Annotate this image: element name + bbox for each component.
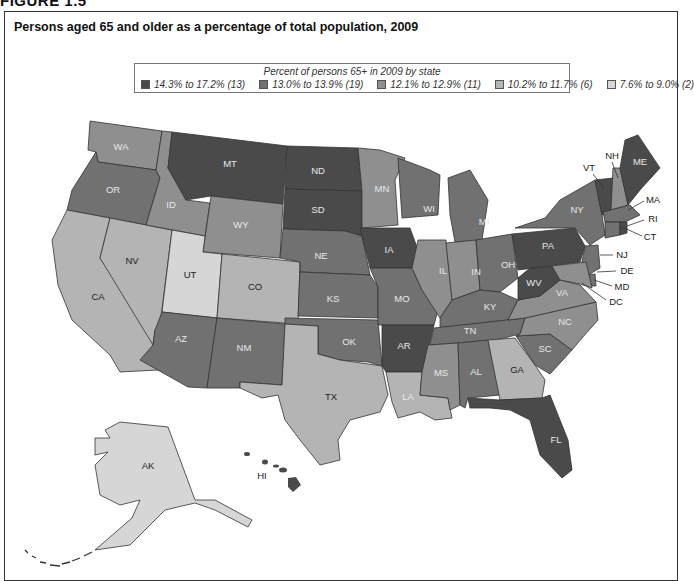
state-HI-island-4[interactable]	[279, 468, 287, 473]
label-VA: VA	[556, 287, 569, 298]
label-NE: NE	[314, 250, 327, 261]
label-NY: NY	[570, 204, 584, 215]
legend-label: 12.1% to 12.9% (11)	[390, 79, 480, 90]
label-OR: OR	[106, 184, 120, 195]
label-TX: TX	[325, 391, 338, 402]
label-WV: WV	[526, 277, 542, 288]
label-MN: MN	[375, 183, 390, 194]
label-KY: KY	[484, 301, 497, 312]
legend-item-class-3: 12.1% to 12.9% (11)	[377, 79, 480, 90]
label-OK: OK	[342, 336, 356, 347]
label-NC: NC	[558, 316, 572, 327]
label-WI: WI	[423, 203, 435, 214]
label-FL: FL	[550, 434, 561, 445]
label-AZ: AZ	[175, 333, 187, 344]
label-WA: WA	[114, 141, 130, 152]
label-NH: NH	[605, 150, 619, 161]
leader-DE	[597, 271, 616, 272]
label-MT: MT	[223, 158, 237, 169]
legend-item-class-1: 14.3% to 17.2% (13)	[141, 79, 245, 90]
label-NJ: NJ	[616, 249, 628, 260]
label-GA: GA	[510, 364, 524, 375]
alaska-aleutians	[25, 550, 92, 566]
state-MI[interactable]	[448, 170, 488, 242]
label-ME: ME	[633, 156, 647, 167]
label-NM: NM	[237, 342, 252, 353]
label-KS: KS	[327, 293, 340, 304]
legend-label: 14.3% to 17.2% (13)	[154, 79, 245, 90]
legend-swatch-icon	[141, 80, 150, 89]
state-NM[interactable]	[207, 318, 285, 388]
label-MD: MD	[615, 281, 630, 292]
state-HI[interactable]	[288, 477, 301, 492]
legend-item-class-4: 10.2% to 11.7% (6)	[495, 79, 593, 90]
legend-label: 10.2% to 11.7% (6)	[508, 79, 593, 90]
legend: Percent of persons 65+ in 2009 by state …	[134, 63, 570, 93]
label-PA: PA	[542, 240, 555, 251]
state-HI-island-2[interactable]	[262, 460, 268, 465]
label-CO: CO	[248, 281, 262, 292]
legend-swatch-icon	[607, 80, 616, 89]
label-NV: NV	[125, 255, 139, 266]
label-DC: DC	[609, 296, 623, 307]
label-IA: IA	[385, 244, 395, 255]
state-AK[interactable]	[95, 422, 252, 550]
leader-MD	[594, 280, 612, 286]
label-IN: IN	[471, 266, 481, 277]
label-ID: ID	[166, 199, 176, 210]
legend-item-class-2: 13.0% to 13.9% (19)	[259, 79, 363, 90]
label-MS: MS	[434, 367, 448, 378]
label-WY: WY	[233, 219, 249, 230]
label-CT: CT	[644, 231, 657, 242]
label-MO: MO	[394, 293, 409, 304]
state-HI-island-1[interactable]	[244, 452, 250, 456]
label-CA: CA	[91, 291, 105, 302]
legend-title: Percent of persons 65+ in 2009 by state	[135, 66, 569, 77]
label-UT: UT	[184, 269, 197, 280]
legend-swatch-icon	[495, 80, 504, 89]
state-HI-island-3[interactable]	[273, 465, 279, 468]
label-HI: HI	[257, 470, 267, 481]
state-CT[interactable]	[605, 222, 620, 238]
label-RI: RI	[648, 213, 658, 224]
leader-RI	[627, 220, 644, 226]
label-AR: AR	[397, 340, 410, 351]
label-SD: SD	[311, 204, 324, 215]
label-VT: VT	[583, 162, 595, 173]
label-IL: IL	[439, 265, 447, 276]
label-ND: ND	[311, 165, 325, 176]
label-MI: MI	[479, 216, 490, 227]
label-MA: MA	[646, 194, 661, 205]
label-LA: LA	[402, 391, 414, 402]
legend-swatch-icon	[259, 80, 268, 89]
label-OH: OH	[501, 259, 515, 270]
label-AL: AL	[470, 366, 482, 377]
legend-label: 13.0% to 13.9% (19)	[272, 79, 363, 90]
label-SC: SC	[538, 343, 551, 354]
label-DE: DE	[620, 265, 633, 276]
legend-label: 7.6% to 9.0% (2)	[620, 79, 694, 90]
legend-swatch-icon	[377, 80, 386, 89]
label-TN: TN	[464, 325, 477, 336]
label-AK: AK	[142, 460, 155, 471]
legend-item-class-5: 7.6% to 9.0% (2)	[607, 79, 694, 90]
